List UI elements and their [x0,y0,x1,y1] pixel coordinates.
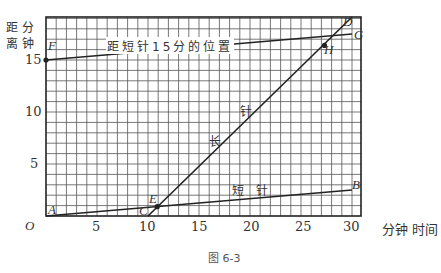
point-label-A: A [48,202,56,218]
x-tick-20: 20 [243,219,260,234]
y-axis-label-line2: 离 钟 [6,34,34,51]
x-tick-25: 25 [295,219,312,234]
data-points [43,43,327,209]
point-label-H: H [324,42,333,58]
point-label-B: B [352,177,360,193]
point-label-E: E [149,191,157,207]
origin-label: O [25,218,34,234]
x-tick-10: 10 [139,219,156,234]
long-hand-label-1: 长 [209,132,221,149]
point-label-F: F [48,38,56,54]
point-label-D: D [343,14,352,30]
x-tick-15: 15 [191,219,208,234]
point-label-G: G [354,27,363,43]
x-axis-label: 分钟 时间 [382,219,438,238]
figure-caption: 图 6-3 [208,249,240,265]
clock-hands-diagram: 距 分 离 钟 O 分钟 时间 图 6-3 5 10 15 20 25 30 5… [0,0,441,273]
y-tick-5: 5 [30,156,38,171]
point-label-C: C [139,203,148,219]
y-tick-15: 15 [25,52,42,67]
top-line-label: 距短针15分的位置 [106,37,234,54]
y-tick-10: 10 [25,104,42,119]
x-tick-30: 30 [343,219,360,234]
x-tick-5: 5 [92,219,100,234]
y-axis-label-line1: 距 分 [6,18,34,35]
long-hand-label-2: 针 [240,102,252,119]
short-hand-label: 短 针 [232,181,272,198]
